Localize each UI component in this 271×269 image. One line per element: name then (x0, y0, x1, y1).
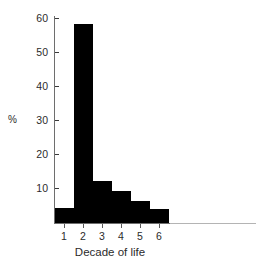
y-tick-mark-30 (55, 120, 59, 121)
y-axis-label: % (8, 114, 17, 125)
y-tick-mark-10 (55, 188, 59, 189)
y-tick-mark-60 (55, 18, 59, 19)
x-axis-spine-extension (170, 223, 256, 224)
bar-decade-5 (131, 201, 150, 223)
x-tick-mark-4 (121, 224, 122, 228)
y-tick-label-30: 30 (26, 115, 48, 125)
y-tick-label-60: 60 (26, 13, 48, 23)
y-tick-mark-20 (55, 154, 59, 155)
bar-decade-6 (150, 209, 169, 223)
bar-decade-2 (74, 24, 93, 223)
x-axis-spine (54, 223, 170, 224)
x-axis-label: Decade of life (0, 246, 220, 258)
y-tick-mark-40 (55, 86, 59, 87)
y-tick-label-10: 10 (26, 183, 48, 193)
y-tick-mark-50 (55, 52, 59, 53)
y-axis-spine (54, 16, 55, 224)
x-tick-label-1: 1 (56, 230, 72, 242)
x-tick-mark-6 (159, 224, 160, 228)
y-tick-label-40: 40 (26, 81, 48, 91)
x-tick-label-3: 3 (94, 230, 110, 242)
x-tick-mark-2 (83, 224, 84, 228)
x-tick-mark-1 (64, 224, 65, 228)
y-tick-label-50: 50 (26, 47, 48, 57)
x-tick-label-5: 5 (132, 230, 148, 242)
y-tick-label-20: 20 (26, 149, 48, 159)
x-tick-mark-3 (102, 224, 103, 228)
x-tick-mark-5 (140, 224, 141, 228)
x-tick-label-6: 6 (151, 230, 167, 242)
x-tick-label-4: 4 (113, 230, 129, 242)
histogram-figure: % 60 50 40 30 20 10 1 2 3 4 5 6 Decade o… (0, 0, 271, 269)
x-tick-label-2: 2 (75, 230, 91, 242)
bar-decade-1 (55, 208, 74, 223)
bar-decade-3 (93, 181, 112, 223)
bar-decade-4 (112, 191, 131, 223)
